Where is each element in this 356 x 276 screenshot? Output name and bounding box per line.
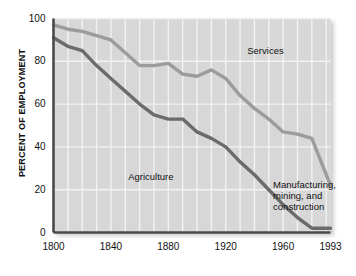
y-axis-title: PERCENT OF EMPLOYMENT xyxy=(17,28,27,198)
y-axis-tick-label: 100 xyxy=(18,13,46,24)
annotation-label: Manufacturing, mining, and construction xyxy=(273,179,336,212)
x-axis-tick-label: 1960 xyxy=(263,241,303,252)
y-axis-tick-label: 40 xyxy=(18,141,46,152)
y-axis-tick-label: 80 xyxy=(18,55,46,66)
employment-share-chart: PERCENT OF EMPLOYMENT 020406080100 18001… xyxy=(0,0,356,276)
y-axis-tick-label: 60 xyxy=(18,98,46,109)
x-axis-tick-label: 1993 xyxy=(311,241,351,252)
x-axis-tick-label: 1880 xyxy=(148,241,188,252)
annotation-label: Services xyxy=(247,45,283,56)
x-axis-tick-label: 1920 xyxy=(206,241,246,252)
x-axis-tick-label: 1840 xyxy=(91,241,131,252)
plot-area xyxy=(0,0,356,276)
annotation-label: Agriculture xyxy=(128,171,173,182)
y-axis-tick-label: 0 xyxy=(18,227,46,238)
y-axis-tick-label: 20 xyxy=(18,184,46,195)
x-axis-tick-label: 1800 xyxy=(34,241,74,252)
